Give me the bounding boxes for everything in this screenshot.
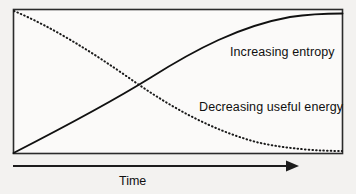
entropy-vs-time-chart: Increasing entropy Decreasing useful ene… [0,0,356,194]
increasing-entropy-label: Increasing entropy [230,45,335,59]
plot-frame [14,10,343,154]
time-axis-label: Time [119,174,146,188]
decreasing-useful-energy-label: Decreasing useful energy [199,100,343,114]
chart-canvas [0,0,356,194]
